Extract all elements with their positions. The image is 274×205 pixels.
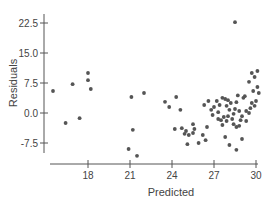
data-point	[240, 137, 244, 141]
residual-scatter-plot: 22.515.07.50.0-7.51821242730 Predicted R…	[0, 0, 274, 205]
data-point	[187, 133, 191, 137]
data-point	[71, 82, 75, 86]
data-point	[228, 108, 232, 112]
data-point	[174, 95, 178, 99]
data-point	[130, 95, 134, 99]
data-point	[226, 98, 230, 102]
data-point	[64, 121, 68, 125]
data-point	[229, 101, 233, 105]
data-point	[253, 104, 257, 108]
x-tick-label: 27	[208, 170, 220, 181]
data-point	[244, 109, 248, 113]
data-point	[256, 85, 260, 89]
data-point	[256, 69, 260, 73]
y-axis-label: Residuals	[7, 58, 19, 107]
data-point	[243, 94, 247, 98]
data-point	[225, 119, 229, 123]
data-point	[89, 87, 93, 91]
data-point	[78, 116, 82, 120]
data-point	[186, 142, 190, 146]
data-point	[240, 114, 244, 118]
data-point	[131, 128, 135, 132]
data-point	[237, 109, 241, 113]
data-point	[222, 115, 226, 119]
data-point	[221, 123, 225, 127]
data-point	[173, 127, 177, 131]
data-points	[51, 20, 261, 157]
data-point	[51, 89, 55, 93]
data-point	[179, 108, 183, 112]
y-tick-label: 0.0	[24, 108, 38, 119]
data-point	[233, 107, 237, 111]
data-point	[244, 119, 248, 123]
y-tick-label: 15.0	[19, 48, 39, 59]
data-point	[207, 99, 211, 103]
data-point	[191, 131, 195, 135]
x-axis-label: Predicted	[148, 186, 194, 198]
data-point	[204, 138, 208, 142]
x-tick-label: 30	[250, 170, 262, 181]
data-point	[223, 135, 227, 139]
data-point	[235, 100, 239, 104]
data-point	[236, 94, 240, 98]
data-point	[254, 99, 258, 103]
data-point	[233, 20, 237, 24]
data-point	[193, 127, 197, 131]
data-point	[247, 80, 251, 84]
data-point	[167, 105, 171, 109]
data-point	[253, 75, 257, 79]
y-tick-label: -7.5	[21, 138, 39, 149]
data-point	[257, 91, 261, 95]
data-point	[135, 154, 139, 158]
data-point	[202, 103, 206, 107]
data-point	[212, 105, 216, 109]
data-point	[232, 122, 236, 126]
data-point	[237, 124, 241, 128]
data-point	[163, 100, 167, 104]
data-point	[216, 110, 220, 114]
data-point	[226, 114, 230, 118]
data-point	[142, 91, 146, 95]
data-point	[201, 133, 205, 137]
data-point	[228, 143, 232, 147]
data-point	[239, 118, 243, 122]
y-tick-label: 7.5	[24, 78, 38, 89]
data-point	[230, 117, 234, 121]
x-tick-label: 18	[82, 170, 94, 181]
data-point	[216, 117, 220, 121]
data-point	[232, 112, 236, 116]
data-point	[205, 125, 209, 129]
data-point	[127, 147, 131, 151]
x-tick-label: 24	[166, 170, 178, 181]
data-point	[250, 101, 254, 105]
data-point	[184, 129, 188, 133]
data-point	[251, 89, 255, 93]
data-point	[218, 103, 222, 107]
data-point	[191, 122, 195, 126]
data-point	[86, 78, 90, 82]
data-point	[249, 106, 253, 110]
y-tick-label: 22.5	[19, 18, 39, 29]
data-point	[250, 71, 254, 75]
x-tick-label: 21	[124, 170, 136, 181]
data-point	[209, 108, 213, 112]
data-point	[86, 71, 90, 75]
data-point	[215, 99, 219, 103]
data-point	[211, 113, 215, 117]
data-point	[180, 126, 184, 130]
data-point	[197, 141, 201, 145]
data-point	[235, 148, 239, 152]
data-point	[225, 104, 229, 108]
